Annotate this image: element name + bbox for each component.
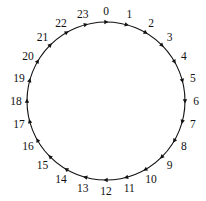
arrow-icon (104, 20, 108, 24)
arrow-icon (183, 99, 187, 103)
node-label: 7 (190, 118, 196, 130)
node-label: 9 (167, 159, 173, 171)
arrow-icon (25, 98, 29, 102)
node-label: 23 (77, 8, 89, 20)
node-label: 4 (181, 50, 187, 62)
node-label: 1 (126, 8, 132, 20)
node-label: 6 (193, 95, 199, 107)
node-label: 21 (37, 31, 49, 43)
node-label: 14 (55, 173, 67, 185)
arrow-icon (103, 178, 107, 182)
node-label: 12 (100, 185, 112, 197)
node-label: 16 (22, 140, 34, 152)
node-label: 22 (55, 17, 67, 29)
node-label: 13 (77, 182, 89, 194)
arrow-icon (83, 23, 88, 27)
arrow-icon (124, 175, 129, 179)
node-label: 15 (37, 159, 49, 171)
node-label: 5 (190, 72, 196, 84)
cycle-diagram: 01234567891011121314151617181920212223 (0, 0, 206, 201)
node-label: 2 (148, 17, 154, 29)
node-label: 3 (167, 31, 173, 43)
node-label: 19 (13, 72, 25, 84)
node-label: 20 (22, 50, 34, 62)
node-label: 8 (181, 140, 187, 152)
arrowheads (25, 20, 187, 182)
node-labels: 01234567891011121314151617181920212223 (10, 5, 199, 197)
node-label: 17 (13, 118, 25, 130)
node-label: 10 (145, 173, 157, 185)
arrow-icon (180, 78, 184, 83)
node-label: 11 (124, 182, 135, 194)
node-label: 18 (10, 95, 22, 107)
node-label: 0 (103, 5, 109, 17)
arrow-icon (28, 119, 32, 124)
